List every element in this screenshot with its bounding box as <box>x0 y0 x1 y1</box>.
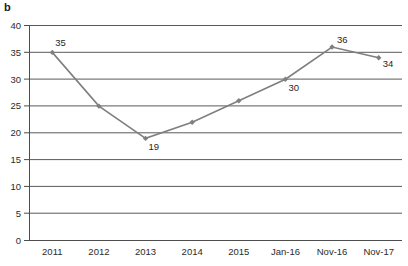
x-tick-label: 2015 <box>228 246 249 257</box>
data-point-label: 19 <box>149 141 160 152</box>
y-tick-label: 25 <box>10 100 21 111</box>
y-tick-label: 15 <box>10 154 21 165</box>
chart-figure: b 40 3 <box>0 0 408 266</box>
x-tick-label: 2013 <box>135 246 156 257</box>
x-tick-label: Jan-16 <box>271 246 300 257</box>
data-point-marker <box>189 120 194 125</box>
data-point-marker <box>236 98 241 103</box>
y-tick-label: 5 <box>16 208 21 219</box>
x-tick-label: 2014 <box>182 246 203 257</box>
x-tick-label: Nov-16 <box>317 246 348 257</box>
y-tick-label: 30 <box>10 74 21 85</box>
y-tick-label: 10 <box>10 181 21 192</box>
data-point-labels: 3519303634 <box>55 34 393 152</box>
x-tick-label: 2011 <box>42 246 62 257</box>
y-tick-label: 20 <box>10 127 21 138</box>
data-point-label: 35 <box>55 37 66 48</box>
y-tick-labels: 40 35 30 25 20 15 10 5 0 <box>10 20 21 246</box>
y-tick-label: 40 <box>10 20 21 31</box>
data-point-label: 36 <box>337 34 348 45</box>
data-point-label: 30 <box>288 82 299 93</box>
x-tick-label: 2012 <box>88 246 109 257</box>
y-tick-label: 0 <box>16 235 21 246</box>
y-tick-label: 35 <box>10 47 21 58</box>
x-tick-label: Nov-17 <box>363 246 394 257</box>
series-line <box>52 47 378 138</box>
x-tick-labels: 20112012201320142015Jan-16Nov-16Nov-17 <box>42 246 394 257</box>
data-series-group <box>50 44 382 141</box>
line-chart-plot: 40 35 30 25 20 15 10 5 0 3519303634 2011… <box>0 0 408 266</box>
y-tick-marks <box>24 26 29 241</box>
data-point-marker <box>376 55 381 60</box>
data-point-label: 34 <box>383 58 394 69</box>
gridlines <box>29 26 402 214</box>
